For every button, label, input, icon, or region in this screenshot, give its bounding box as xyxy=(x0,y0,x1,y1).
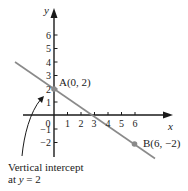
y-tick-label: −1 xyxy=(40,124,51,135)
x-tick-label: 5 xyxy=(119,118,124,129)
x-tick-label: 2 xyxy=(79,118,84,129)
coordinate-graph: 0 1 2 3 4 5 6 6 5 4 3 2 1 −1 −2 y x A(0,… xyxy=(0,0,188,191)
y-tick-label: 4 xyxy=(46,57,51,68)
y-tick-label: 1 xyxy=(46,97,51,108)
caption-suffix: = 2 xyxy=(24,173,41,185)
annotation-caption: Vertical intercept at y = 2 xyxy=(8,161,83,185)
point-b-marker xyxy=(132,141,138,147)
x-tick-label: 6 xyxy=(133,118,138,129)
x-tick-label: 4 xyxy=(106,118,111,129)
point-b-label: B(6, −2) xyxy=(143,137,181,150)
x-axis-arrow-icon xyxy=(163,112,173,119)
caption-line-2: at y = 2 xyxy=(8,173,83,185)
y-axis-arrow-icon xyxy=(51,8,58,18)
caption-prefix: at xyxy=(8,173,19,185)
point-a-marker xyxy=(51,86,57,92)
y-tick-label: 3 xyxy=(46,70,51,81)
y-tick-label: −2 xyxy=(40,137,51,148)
y-tick-label: 5 xyxy=(46,43,51,54)
y-tick-label: 2 xyxy=(46,84,51,95)
x-tick-label: 1 xyxy=(65,118,70,129)
caption-line-1: Vertical intercept xyxy=(8,161,83,173)
y-axis xyxy=(51,8,58,157)
y-tick-label: 6 xyxy=(46,30,51,41)
annotation-curve xyxy=(22,99,41,156)
y-axis-label: y xyxy=(43,4,49,16)
point-a-label: A(0, 2) xyxy=(59,76,91,89)
x-tick-label: 3 xyxy=(92,118,97,129)
x-axis-label: x xyxy=(167,120,173,132)
